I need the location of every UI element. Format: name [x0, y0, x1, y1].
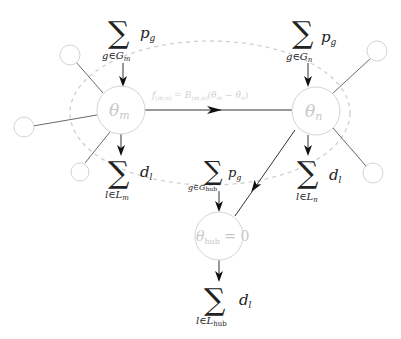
node-m: θm — [97, 86, 145, 134]
svg-text:g∈Gm: g∈Gm — [102, 50, 131, 63]
sigma-icon: ∑ — [108, 15, 130, 50]
svg-text:pg: pg — [321, 28, 337, 47]
network-diagram: θm θn θhub = 0 f(m,n) = B(m,n)(θm − θn) … — [0, 0, 401, 339]
leaf-edge — [332, 58, 371, 94]
edge-n-hub — [235, 130, 295, 216]
svg-text:g∈Gn: g∈Gn — [286, 51, 313, 64]
node-n-label: θ — [305, 101, 315, 121]
sigma-icon: ∑ — [297, 155, 319, 190]
node-n: θn — [292, 87, 340, 135]
leaf-edge — [85, 132, 110, 163]
node-m-label: θ — [109, 100, 119, 120]
sigma-icon: ∑ — [204, 282, 226, 317]
node-n-sub: n — [315, 110, 322, 123]
leaf-edge — [33, 115, 97, 126]
gen-sum-m: ∑ pg g∈Gm — [102, 15, 156, 63]
node-m-sub: m — [119, 109, 129, 122]
svg-text:l∈Lm: l∈Lm — [105, 189, 129, 202]
leaf-edge — [76, 62, 103, 93]
node-hub-suffix: = 0 — [220, 228, 250, 244]
sigma-icon: ∑ — [292, 15, 314, 50]
node-hub: θhub = 0 — [195, 212, 249, 260]
gen-sum-n: ∑ pg g∈Gn — [286, 15, 337, 64]
gen-sum-hub: ∑ pg g∈Ghub — [188, 156, 241, 192]
svg-text:pg: pg — [140, 24, 156, 43]
svg-text:l∈Ln: l∈Ln — [296, 191, 318, 204]
node-hub-sub: hub — [204, 237, 219, 246]
leaf-edge — [333, 128, 366, 166]
sigma-icon: ∑ — [108, 155, 130, 190]
sigma-icon: ∑ — [204, 156, 223, 186]
load-sum-m: ∑ dl l∈Lm — [105, 155, 153, 202]
svg-text:g∈Ghub: g∈Ghub — [188, 183, 217, 192]
load-sum-hub: ∑ dl l∈Lhub — [196, 282, 252, 328]
leaf-node — [60, 45, 80, 65]
flow-label: f(m,n) = B(m,n)(θm − θn) — [151, 90, 248, 101]
load-sum-n: ∑ dl l∈Ln — [296, 155, 342, 204]
svg-text:dl: dl — [329, 166, 342, 185]
svg-text:θhub = 0: θhub = 0 — [196, 228, 249, 246]
leaf-node — [367, 41, 387, 61]
leaf-node — [14, 117, 34, 137]
leaf-node — [363, 163, 383, 183]
svg-text:dl: dl — [239, 291, 252, 310]
svg-text:dl: dl — [140, 163, 153, 182]
leaf-node — [71, 163, 89, 181]
svg-text:pg: pg — [228, 165, 241, 182]
